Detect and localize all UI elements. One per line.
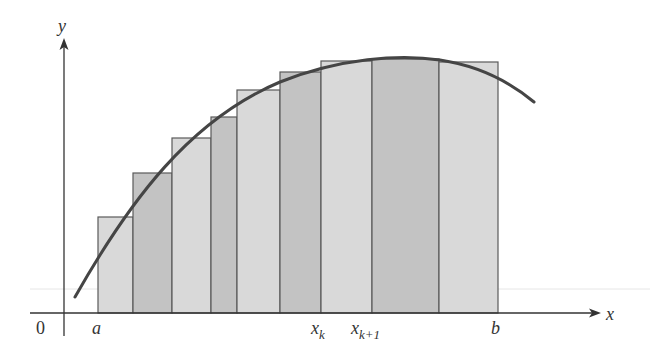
riemann-rectangle-8 — [372, 59, 439, 313]
label-xk1-base: x — [350, 318, 359, 338]
origin-label: 0 — [36, 318, 45, 338]
riemann-rectangle-2 — [133, 173, 172, 313]
riemann-rectangle-6 — [280, 72, 321, 313]
label-xk1-sub: k+1 — [359, 327, 380, 342]
label-xk1: xk+1 — [350, 318, 380, 342]
label-xk-base: x — [310, 318, 319, 338]
riemann-rectangle-9 — [439, 62, 498, 313]
label-xk-sub: k — [319, 327, 325, 342]
riemann-rectangle-4 — [211, 117, 237, 313]
x-axis-label: x — [605, 304, 614, 324]
label-a: a — [92, 318, 101, 338]
riemann-rectangle-5 — [237, 90, 280, 313]
riemann-rectangle-3 — [172, 138, 211, 313]
y-axis-label: y — [56, 16, 66, 36]
label-b: b — [491, 318, 500, 338]
riemann-sum-diagram: y x 0 a b xk xk+1 — [0, 0, 650, 356]
rectangles-group — [98, 59, 498, 313]
label-xk: xk — [310, 318, 325, 342]
riemann-rectangle-7 — [321, 61, 372, 313]
